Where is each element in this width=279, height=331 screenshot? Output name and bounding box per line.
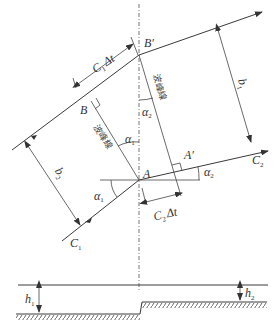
label-alpha1-lower: α1 [94,189,104,204]
label-alpha2-upper: α2 [142,105,152,120]
label-wave-crest-right: 波峰線 [151,73,169,102]
label-c2: C2 [252,153,264,169]
label-alpha1-upper: α1 [125,132,135,147]
label-point-a-prime: A′ [183,148,194,162]
label-h2: h2 [245,286,255,302]
refracted-ray-upper [139,12,262,55]
c2dt-dimension [146,193,182,202]
c1dt-extension-right [131,37,138,55]
ray-arrow-icon [31,135,37,140]
label-c1: C1 [70,236,82,252]
label-point-a: A [142,167,151,181]
right-angle-mark-b [95,98,100,109]
label-b1: b1 [233,77,251,91]
label-point-b-prime: B′ [144,36,154,50]
label-c2-dt: C2Δt [152,204,180,225]
label-h1: h1 [25,292,35,308]
incident-ray-upper [12,55,139,150]
label-point-b: B [80,103,88,117]
label-wave-crest-left: 波峰線 [92,122,115,151]
label-alpha2-lower: α2 [204,165,214,180]
c1dt-extension-left [73,78,76,88]
refraction-diagram: B B′ A A′ C1 C2 α1 α1 α2 α2 C1Δt C2Δt b1… [0,0,279,331]
seabed-shallow-hatch [142,303,267,308]
alpha2-arc-lower [198,167,199,180]
label-b2: b2 [50,165,69,182]
alpha1-arc-lower [111,180,117,197]
seabed-deep-hatch [16,315,140,320]
b2-dimension [28,146,80,225]
b1-dimension [218,30,251,142]
incident-ray-c1 [62,180,139,241]
c2dt-extension-left [142,188,146,204]
alpha2-arc-upper [139,98,153,100]
seabed-step [140,302,142,314]
